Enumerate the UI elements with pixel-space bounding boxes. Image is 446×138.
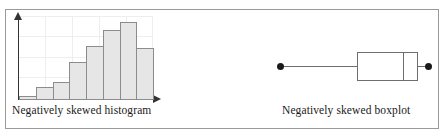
boxplot-caption: Negatively skewed boxplot (282, 104, 410, 116)
boxplot-whisker-left (280, 66, 357, 67)
boxplot-box (357, 52, 418, 81)
x-axis-arrow-icon (153, 95, 161, 103)
boxplot-plot-area (270, 12, 438, 100)
figure-container: Negatively skewed histogram Negatively s… (0, 0, 446, 138)
histogram-bars (19, 16, 153, 100)
boxplot-median-line (403, 52, 404, 81)
boxplot-min-dot (277, 63, 284, 70)
boxplot-panel: Negatively skewed boxplot (270, 12, 440, 126)
histogram-bar (36, 87, 54, 100)
boxplot-max-dot (425, 63, 432, 70)
histogram-bar (86, 46, 104, 100)
histogram-bar (103, 30, 121, 100)
histogram-caption: Negatively skewed histogram (12, 104, 151, 116)
histogram-panel: Negatively skewed histogram (10, 12, 170, 126)
histogram-bar (120, 22, 138, 100)
histogram-bar (19, 96, 37, 100)
histogram-bar (69, 62, 87, 100)
histogram-bar (136, 48, 154, 100)
histogram-bar (53, 82, 71, 100)
histogram-plot-area (10, 12, 162, 100)
